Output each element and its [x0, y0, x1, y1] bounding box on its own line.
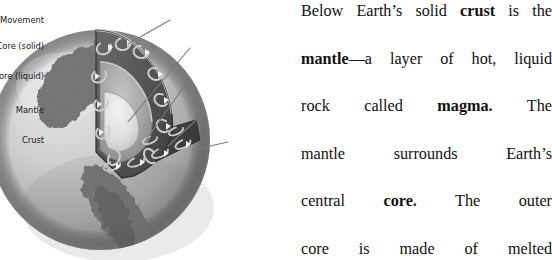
term-magma: magma. — [437, 97, 492, 115]
body-text-column: Below Earth’s solid crust is the mantle—… — [301, 0, 552, 260]
text-line-1: Below Earth’s solid crust is the — [301, 0, 552, 48]
text-line-6: core is made of melted — [301, 238, 552, 260]
page-root: Magma Movement Inner Core (solid) Outer … — [0, 0, 552, 260]
callout-label-mantle: Mantle — [16, 105, 44, 115]
term-core: core. — [384, 192, 417, 210]
term-crust: crust — [460, 2, 495, 20]
line-1-post: is the — [495, 2, 552, 20]
line-3-post: The — [493, 97, 552, 115]
text-line-4: mantle surrounds Earth’s — [301, 143, 552, 191]
text-line-2: mantle—a layer of hot, liquid — [301, 48, 552, 96]
callout-label-crust: Crust — [22, 135, 44, 145]
earth-cutaway-figure: Magma Movement Inner Core (solid) Outer … — [0, 0, 300, 260]
line-3-pre: rock called — [301, 97, 437, 115]
paragraph-1: Below Earth’s solid crust is the mantle—… — [301, 0, 552, 260]
line-5-post: The outer — [417, 192, 552, 210]
callout-label-magma-movement: Magma Movement — [0, 15, 44, 25]
line-2-post: —a layer of hot, liquid — [349, 50, 552, 68]
callout-label-outer-core: Outer Core (liquid) — [0, 71, 44, 81]
text-line-3: rock called magma. The — [301, 95, 552, 143]
earth-cutaway-illustration — [0, 0, 300, 260]
callout-label-inner-core: Inner Core (solid) — [0, 41, 44, 51]
leader-line-magma — [128, 20, 170, 44]
line-5-pre: central — [301, 192, 384, 210]
term-mantle: mantle — [301, 50, 349, 68]
line-1-pre: Below Earth’s solid — [301, 2, 460, 20]
text-line-5: central core. The outer — [301, 190, 552, 238]
